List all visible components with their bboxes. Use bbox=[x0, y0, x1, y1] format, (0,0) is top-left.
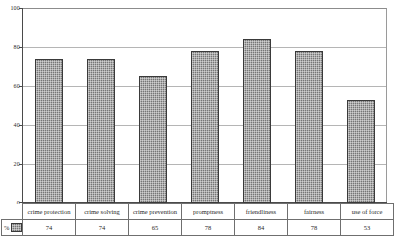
bar-fairness bbox=[295, 51, 323, 203]
bar-slot bbox=[127, 8, 179, 203]
bar-chart-figure: 100 80 60 40 20 0 crime protection crime… bbox=[0, 0, 395, 236]
legend-swatch-icon bbox=[11, 223, 22, 232]
value-cell-5: 78 bbox=[288, 220, 341, 236]
bar-slot bbox=[179, 8, 231, 203]
bar-promptness bbox=[191, 51, 219, 203]
value-cell-1: 74 bbox=[76, 220, 129, 236]
category-header-4: friendliness bbox=[235, 204, 288, 220]
category-header-0: crime protection bbox=[23, 204, 76, 220]
category-header-6: use of force bbox=[341, 204, 394, 220]
y-tick-label-20: 20 bbox=[0, 161, 20, 167]
bar-crime-solving bbox=[87, 59, 115, 203]
category-header-3: promptness bbox=[182, 204, 235, 220]
category-header-5: fairness bbox=[288, 204, 341, 220]
value-cell-2: 65 bbox=[129, 220, 182, 236]
value-cell-4: 84 bbox=[235, 220, 288, 236]
y-tick-mark-80 bbox=[19, 47, 22, 48]
y-tick-mark-100 bbox=[19, 8, 22, 9]
bar-use-of-force bbox=[347, 100, 375, 203]
table-row-headers: crime protection crime solving crime pre… bbox=[2, 204, 394, 220]
bar-crime-prevention bbox=[139, 76, 167, 203]
bar-slot bbox=[231, 8, 283, 203]
legend-cell: % bbox=[2, 220, 23, 236]
plot-area: 100 80 60 40 20 0 bbox=[0, 0, 395, 206]
bar-slot bbox=[23, 8, 75, 203]
y-tick-label-60: 60 bbox=[0, 83, 20, 89]
bar-slot bbox=[75, 8, 127, 203]
category-header-1: crime solving bbox=[76, 204, 129, 220]
value-cell-3: 78 bbox=[182, 220, 235, 236]
y-tick-label-40: 40 bbox=[0, 122, 20, 128]
legend-series-label: % bbox=[4, 224, 9, 231]
bar-slot bbox=[335, 8, 387, 203]
y-tick-mark-20 bbox=[19, 164, 22, 165]
data-table: crime protection crime solving crime pre… bbox=[1, 203, 394, 235]
bar-friendliness bbox=[243, 39, 271, 203]
y-tick-label-80: 80 bbox=[0, 44, 20, 50]
table-corner-blank bbox=[2, 204, 23, 220]
y-tick-mark-60 bbox=[19, 86, 22, 87]
bar-crime-protection bbox=[35, 59, 63, 203]
table-row-values: % 74 74 65 78 84 78 53 bbox=[2, 220, 394, 236]
category-value-table: crime protection crime solving crime pre… bbox=[1, 203, 394, 236]
value-cell-0: 74 bbox=[23, 220, 76, 236]
y-tick-label-100: 100 bbox=[0, 5, 20, 11]
category-header-2: crime prevention bbox=[129, 204, 182, 220]
bar-slot bbox=[283, 8, 335, 203]
value-cell-6: 53 bbox=[341, 220, 394, 236]
bars-layer bbox=[23, 8, 387, 203]
y-tick-mark-40 bbox=[19, 125, 22, 126]
